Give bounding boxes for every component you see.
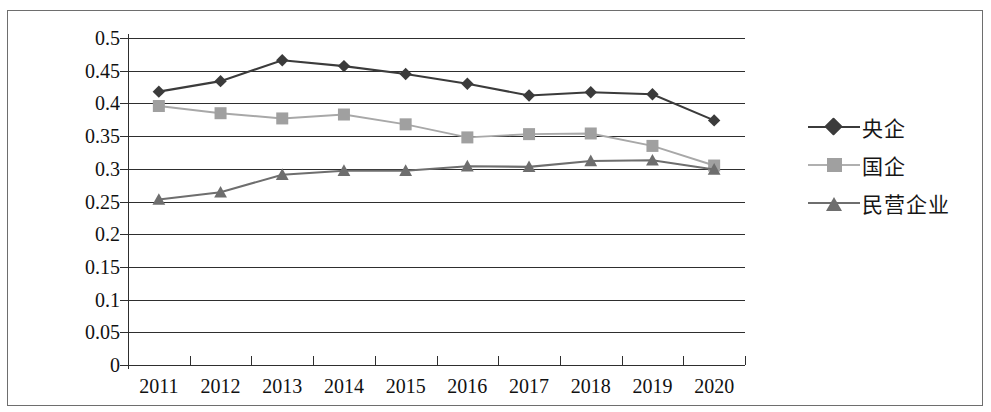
y-axis-tick-label: 0.25 bbox=[60, 192, 120, 212]
y-axis-tick-mark bbox=[120, 300, 128, 301]
x-axis-tick-mark bbox=[375, 356, 376, 365]
gridline bbox=[128, 332, 745, 333]
gridline bbox=[128, 202, 745, 203]
x-axis-tick-mark bbox=[128, 356, 129, 365]
y-axis-tick-label: 0.4 bbox=[60, 93, 120, 113]
x-axis-tick-label: 2018 bbox=[571, 374, 611, 398]
gridline bbox=[128, 234, 745, 235]
gridline bbox=[128, 169, 745, 170]
x-axis-tick-mark bbox=[251, 356, 252, 365]
legend-item-state-owned-enterprises: 国企 bbox=[806, 146, 981, 184]
x-axis-tick-label: 2019 bbox=[632, 374, 672, 398]
legend-label-1: 国企 bbox=[862, 150, 906, 180]
chart-legend: 央企 国企 民营企业 bbox=[806, 108, 981, 222]
gridline bbox=[128, 267, 745, 268]
y-axis-tick-label: 0.35 bbox=[60, 126, 120, 146]
x-axis-tick-label: 2012 bbox=[201, 374, 241, 398]
y-axis-line bbox=[128, 34, 129, 369]
y-axis-tick-mark bbox=[120, 38, 128, 39]
x-axis-tick-mark bbox=[190, 356, 191, 365]
x-axis-tick-mark bbox=[437, 356, 438, 365]
y-axis-tick-label: 0.15 bbox=[60, 257, 120, 277]
gridline bbox=[128, 71, 745, 72]
y-axis-tick-mark bbox=[120, 332, 128, 333]
legend-key-triangle bbox=[806, 193, 862, 213]
y-axis-tick-mark bbox=[120, 136, 128, 137]
diamond-marker-icon bbox=[824, 117, 842, 135]
x-axis-tick-label: 2014 bbox=[324, 374, 364, 398]
triangle-marker-icon bbox=[826, 197, 842, 211]
y-axis-tick-label: 0.5 bbox=[60, 28, 120, 48]
y-axis-tick-mark bbox=[120, 71, 128, 72]
x-axis-tick-mark bbox=[498, 356, 499, 365]
y-axis-tick-label: 0.2 bbox=[60, 224, 120, 244]
legend-item-private-enterprises: 民营企业 bbox=[806, 184, 981, 222]
y-axis-labels: 0.50.450.40.350.30.250.20.150.10.050 bbox=[56, 38, 120, 365]
x-axis-tick-label: 2017 bbox=[509, 374, 549, 398]
gridline bbox=[128, 38, 745, 39]
y-axis-tick-mark bbox=[120, 267, 128, 268]
y-axis-tick-mark bbox=[120, 234, 128, 235]
x-axis-tick-mark bbox=[683, 356, 684, 365]
legend-label-2: 民营企业 bbox=[862, 188, 950, 218]
y-axis-tick-mark bbox=[120, 365, 128, 366]
gridline bbox=[128, 103, 745, 104]
x-axis-tick-mark bbox=[560, 356, 561, 365]
x-axis-tick-label: 2016 bbox=[447, 374, 487, 398]
x-axis-line bbox=[128, 365, 745, 366]
y-axis-tick-mark bbox=[120, 202, 128, 203]
legend-key-square bbox=[806, 155, 862, 175]
legend-key-diamond bbox=[806, 117, 862, 137]
y-axis-tick-label: 0 bbox=[60, 355, 120, 375]
legend-item-central-enterprises: 央企 bbox=[806, 108, 981, 146]
x-axis-labels: 2011201220132014201520162017201820192020 bbox=[128, 374, 745, 404]
chart-figure: 0.50.450.40.350.30.250.20.150.10.050 201… bbox=[0, 0, 991, 412]
y-axis-tick-label: 0.3 bbox=[60, 159, 120, 179]
square-marker-icon bbox=[827, 158, 842, 172]
y-axis-tick-label: 0.05 bbox=[60, 322, 120, 342]
legend-label-0: 央企 bbox=[862, 112, 906, 142]
y-axis-tick-mark bbox=[120, 169, 128, 170]
y-axis-tick-label: 0.1 bbox=[60, 290, 120, 310]
gridline bbox=[128, 300, 745, 301]
x-axis-tick-label: 2015 bbox=[386, 374, 426, 398]
x-axis-tick-label: 2020 bbox=[694, 374, 734, 398]
x-axis-tick-label: 2013 bbox=[262, 374, 302, 398]
x-axis-tick-mark bbox=[745, 356, 746, 365]
y-axis-tick-label: 0.45 bbox=[60, 61, 120, 81]
gridline bbox=[128, 136, 745, 137]
plot-area bbox=[128, 38, 745, 365]
x-axis-tick-label: 2011 bbox=[139, 374, 178, 398]
x-axis-tick-mark bbox=[313, 356, 314, 365]
y-axis-tick-mark bbox=[120, 103, 128, 104]
x-axis-tick-mark bbox=[622, 356, 623, 365]
